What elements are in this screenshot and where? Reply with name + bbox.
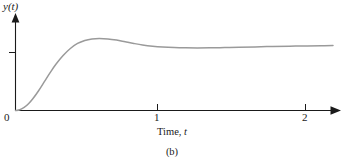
x-tick-label-2: 2 [302, 112, 308, 123]
x-tick-label-1: 1 [154, 112, 160, 123]
x-axis-arrow-icon [331, 106, 342, 115]
response-curve [16, 38, 334, 110]
figure-container: y(t) 0 1 2 Time, t (b) [0, 0, 344, 163]
x-tick-label-0: 0 [4, 112, 10, 123]
figure-caption: (b) [0, 147, 344, 158]
plot-canvas [0, 0, 344, 163]
y-axis-label: y(t) [3, 1, 18, 12]
y-axis-arrow-icon [12, 13, 20, 23]
x-axis-title: Time, t [0, 127, 344, 138]
